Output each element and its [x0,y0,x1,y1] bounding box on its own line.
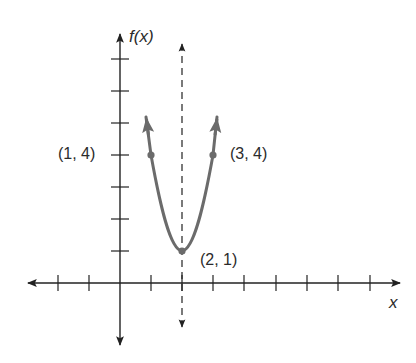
x-axis-label: x [389,293,398,313]
right-arrow [215,119,217,135]
y-axis-label: f(x) [129,27,154,47]
point-2-1 [178,247,185,254]
left-arrow [147,119,149,135]
point-vertex-label: (2, 1) [200,251,237,269]
parabola-graph [0,0,416,363]
point-3-4 [209,151,216,158]
point-1-4 [147,151,154,158]
point-right-label: (3, 4) [230,145,267,163]
point-left-label: (1, 4) [58,145,95,163]
